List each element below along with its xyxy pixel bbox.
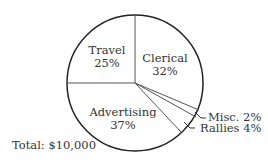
total-label: Total: $10,000 <box>12 139 96 152</box>
label-clerical-pct: 32% <box>140 65 190 78</box>
label-advertising-pct: 37% <box>88 119 158 132</box>
label-clerical: Clerical 32% <box>140 52 190 78</box>
label-rallies: Rallies 4% <box>200 122 261 135</box>
label-travel: Travel 25% <box>82 44 132 70</box>
label-advertising: Advertising 37% <box>88 106 158 132</box>
label-travel-pct: 25% <box>82 57 132 70</box>
